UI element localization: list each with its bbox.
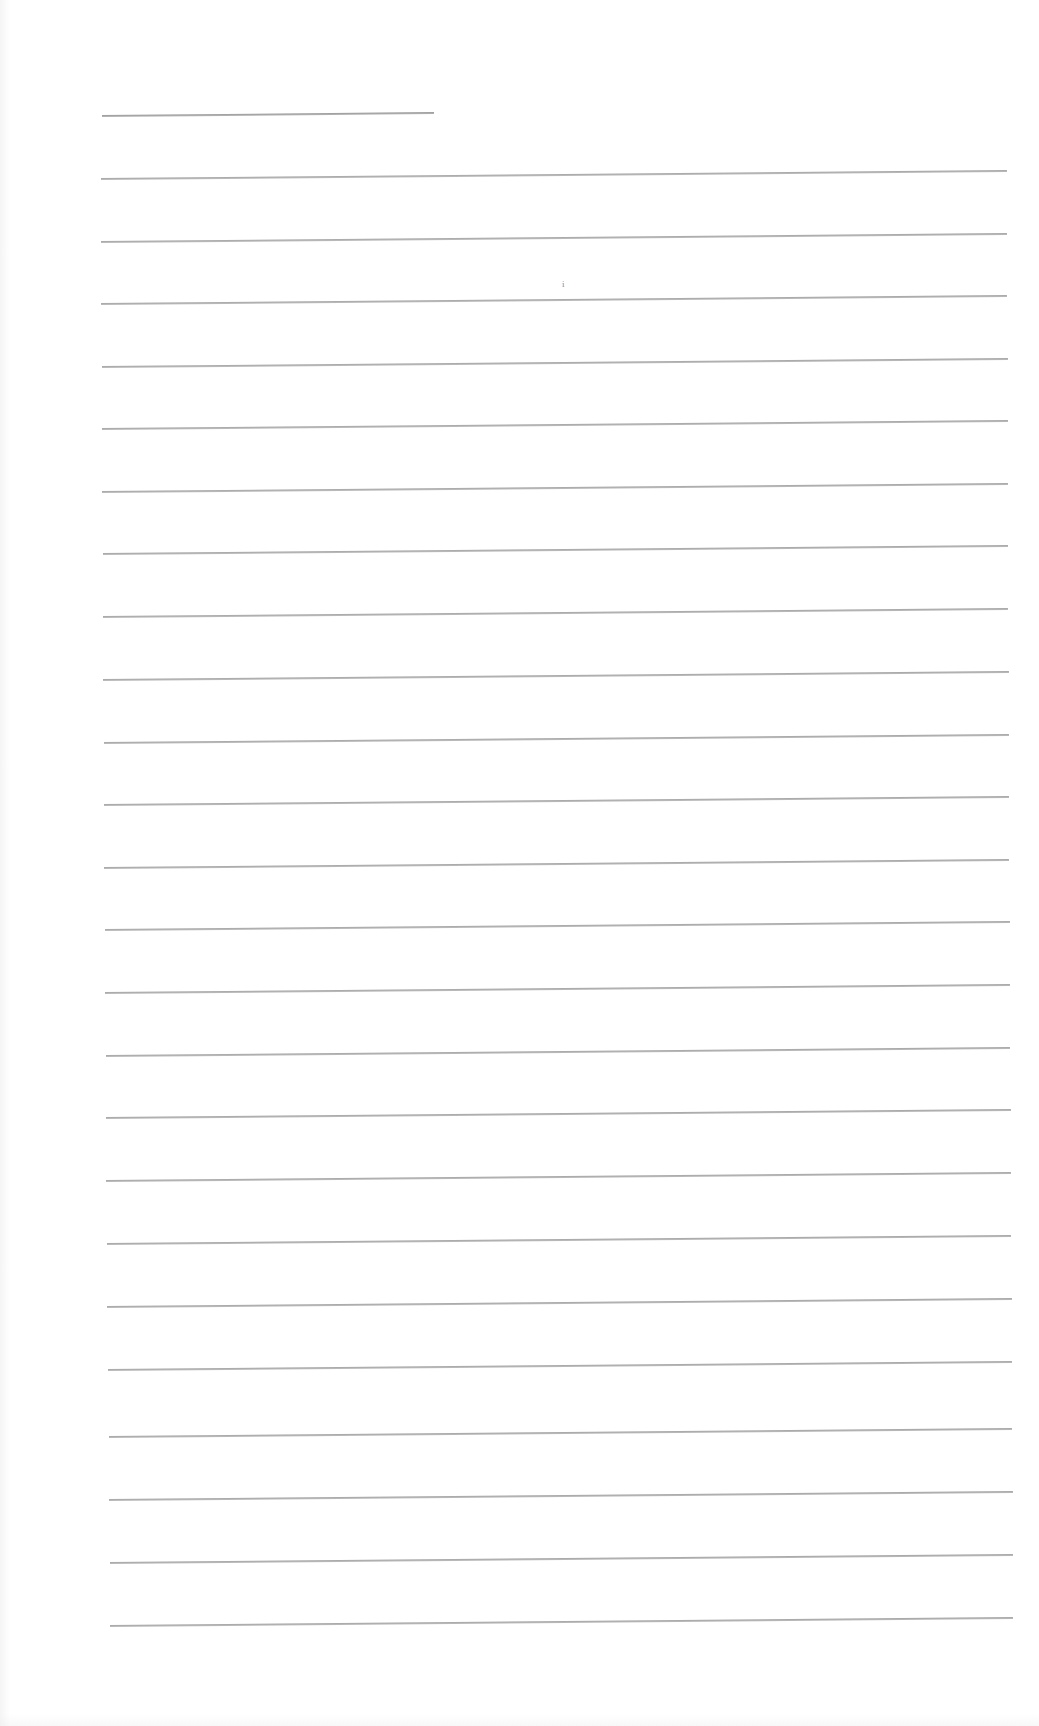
ruled-line: [101, 233, 1007, 243]
ruled-line: [102, 420, 1008, 430]
ruled-line: [102, 483, 1008, 493]
ruled-paper-page: i: [0, 0, 1039, 1726]
ruled-line: [105, 984, 1010, 994]
ruled-line: [102, 358, 1008, 368]
bottom-bleed-through: [0, 1714, 1039, 1726]
ruled-line: [109, 1428, 1012, 1438]
ruled-line: [106, 1109, 1011, 1119]
ruled-line: [105, 921, 1010, 931]
ruled-line: [101, 295, 1007, 305]
ruled-line: [107, 1298, 1012, 1308]
ruled-line: [103, 545, 1008, 555]
title-rule-line: [102, 112, 434, 117]
ruled-line: [104, 734, 1009, 744]
ruled-line: [106, 1047, 1010, 1057]
ruled-line: [103, 608, 1008, 618]
ruled-line: [104, 859, 1009, 869]
ruled-line: [101, 170, 1007, 180]
ruled-line: [109, 1491, 1013, 1501]
ruled-line: [110, 1617, 1013, 1627]
ruled-line: [103, 671, 1009, 681]
page-edge-shadow: [0, 0, 10, 1726]
ruled-line: [104, 796, 1009, 806]
ruled-line: [110, 1554, 1013, 1564]
ruled-line: [107, 1235, 1011, 1245]
ruled-line: [108, 1361, 1012, 1371]
stray-mark: i: [562, 280, 565, 289]
ruled-line: [106, 1172, 1011, 1182]
